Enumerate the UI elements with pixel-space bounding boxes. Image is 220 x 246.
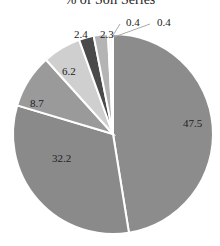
data-label: 8.7: [30, 97, 44, 109]
data-label: 2.4: [74, 28, 88, 40]
data-label: 2.3: [100, 28, 114, 40]
pie-chart: 47.532.28.76.22.42.30.40.4: [0, 0, 220, 246]
pie-slice: [113, 34, 213, 233]
data-label: 32.2: [52, 152, 71, 164]
data-label: 6.2: [62, 65, 76, 77]
data-label: 0.4: [157, 16, 171, 28]
data-label: 47.5: [183, 117, 203, 129]
data-label: 0.4: [126, 16, 140, 28]
